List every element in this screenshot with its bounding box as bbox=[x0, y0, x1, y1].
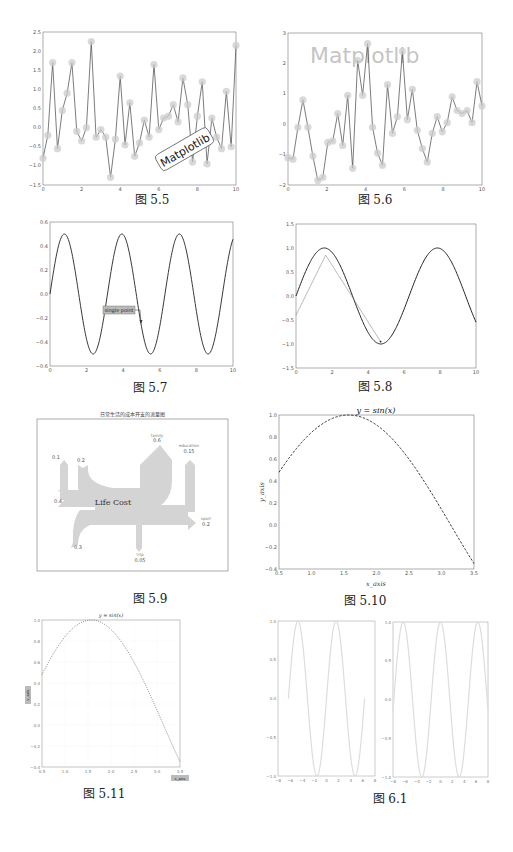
data-point-marker bbox=[126, 99, 133, 106]
y-tick-label: 0.4 bbox=[269, 478, 277, 484]
plot-area bbox=[279, 415, 474, 569]
data-point-marker bbox=[434, 113, 441, 120]
x-tick-label: −4 bbox=[414, 779, 420, 784]
y-tick-label: 0.8 bbox=[269, 434, 277, 440]
x-tick-label: 0 bbox=[294, 369, 297, 375]
y-tick-label: 1.0 bbox=[385, 620, 392, 625]
data-point-marker bbox=[429, 130, 436, 137]
sankey-in-0-2: 0.2 bbox=[77, 457, 85, 463]
data-point-marker bbox=[414, 127, 421, 134]
chart-title: y = sin(x) bbox=[356, 406, 396, 415]
data-point-marker bbox=[409, 86, 416, 93]
data-point-marker bbox=[232, 42, 239, 49]
data-point-marker bbox=[419, 145, 426, 152]
data-point-marker bbox=[78, 137, 85, 144]
y-tick-label: 0 bbox=[283, 121, 286, 127]
data-point-marker bbox=[394, 113, 401, 120]
figure-5-6-chart: Matplotlib 0246810 3210−1−2 bbox=[256, 0, 513, 195]
x-tick-label: 2 bbox=[451, 779, 454, 784]
x-tick-label: 8 bbox=[195, 367, 198, 373]
data-point-marker bbox=[354, 57, 361, 64]
x-tick-label: 8 bbox=[374, 778, 377, 783]
sankey-sport-value: 0.2 bbox=[202, 521, 210, 527]
y-tick-label: −2 bbox=[279, 182, 286, 188]
data-point-marker bbox=[131, 153, 138, 160]
y-tick-label: −0.5 bbox=[266, 735, 276, 740]
x-tick-label: 8 bbox=[196, 186, 199, 192]
x-tick-label: 6 bbox=[158, 367, 161, 373]
data-point-marker bbox=[179, 74, 186, 81]
caption-fig-5-6: 图 5.6 bbox=[358, 190, 393, 207]
data-point-marker bbox=[384, 81, 391, 88]
data-point-marker bbox=[203, 160, 210, 167]
data-point-marker bbox=[449, 93, 456, 100]
data-point-marker bbox=[309, 153, 316, 160]
figure-5-10-chart: y = sin(x) 0.51.01.52.02.53.03.5 1.00.80… bbox=[256, 400, 513, 595]
y-tick-label: 0.2 bbox=[40, 267, 48, 273]
data-point-marker bbox=[329, 137, 336, 144]
x-tick-label: −4 bbox=[299, 778, 305, 783]
single-point-label: single point bbox=[104, 307, 133, 314]
y-tick-label: 0.0 bbox=[33, 124, 41, 130]
data-point-marker bbox=[165, 113, 172, 120]
x-tick-label: 8 bbox=[487, 779, 490, 784]
x-tick-label: 2.0 bbox=[108, 769, 115, 774]
data-point-marker bbox=[136, 139, 143, 146]
data-point-marker bbox=[54, 145, 61, 152]
x-tick-label: 1.5 bbox=[85, 769, 92, 774]
y-tick-label: 1.0 bbox=[33, 86, 41, 92]
data-point-marker bbox=[463, 107, 470, 114]
data-point-marker bbox=[213, 134, 220, 141]
x-tick-label: −2 bbox=[426, 779, 432, 784]
x-tick-label: 4 bbox=[463, 779, 466, 784]
y-tick-label: −1.5 bbox=[282, 365, 294, 371]
data-point-marker bbox=[97, 126, 104, 133]
x-tick-label: −8 bbox=[275, 778, 281, 783]
data-point-marker bbox=[369, 124, 376, 131]
data-point-marker bbox=[339, 142, 346, 149]
y-tick-label: 3 bbox=[283, 30, 286, 36]
caption-fig-5-8: 图 5.8 bbox=[358, 377, 393, 394]
x-tick-label: 8 bbox=[438, 369, 441, 375]
y-tick-label: 2.5 bbox=[33, 29, 41, 35]
y-tick-label: 0.8 bbox=[34, 639, 41, 644]
y-axis-label: y_axis bbox=[258, 481, 266, 503]
x-tick-label: 4 bbox=[122, 367, 125, 373]
data-point-marker bbox=[155, 126, 162, 133]
data-point-marker bbox=[404, 116, 411, 123]
y-tick-label: 0.2 bbox=[34, 702, 41, 707]
y-tick-label: −0.5 bbox=[381, 736, 391, 741]
x-tick-label: 6 bbox=[362, 778, 365, 783]
data-point-marker bbox=[112, 136, 119, 143]
data-point-marker bbox=[294, 124, 301, 131]
caption-fig-5-9: 图 5.9 bbox=[133, 589, 168, 606]
figure-5-8-chart: 0246810 1.51.00.50.0−0.5−1.0−1.5 bbox=[256, 210, 513, 380]
plot-area bbox=[50, 222, 233, 366]
figure-5-9-sankey: 日常生活的成本开支的流量图 0.1 0.2 0.4 0.3 Life Cost … bbox=[0, 405, 256, 585]
y-tick-label: −0.4 bbox=[265, 566, 277, 572]
data-point-marker bbox=[344, 92, 351, 99]
data-point-marker bbox=[473, 78, 480, 85]
x-tick-label: 10 bbox=[473, 369, 479, 375]
x-tick-label: 3.5 bbox=[470, 570, 478, 576]
data-point-marker bbox=[44, 132, 51, 139]
data-point-marker bbox=[49, 59, 56, 66]
data-point-marker bbox=[444, 119, 451, 126]
y-axis-label-box: y_axis bbox=[25, 686, 31, 704]
data-point-marker bbox=[189, 158, 196, 165]
x-tick-label: 2.0 bbox=[373, 570, 381, 576]
x-tick-label: 3.5 bbox=[177, 769, 184, 774]
right-subplot bbox=[393, 622, 488, 777]
y-tick-label: 0.0 bbox=[385, 697, 392, 702]
y-tick-label: 1.0 bbox=[270, 619, 277, 624]
y-tick-label: 0.0 bbox=[40, 291, 48, 297]
data-point-marker bbox=[175, 118, 182, 125]
y-tick-label: 0.5 bbox=[270, 657, 277, 662]
x-tick-label: 2 bbox=[330, 369, 333, 375]
y-tick-label: 0.6 bbox=[269, 456, 277, 462]
data-point-marker bbox=[468, 119, 475, 126]
data-point-marker bbox=[424, 159, 431, 166]
y-tick-label: 0.4 bbox=[34, 681, 41, 686]
figure-5-7-chart: 0246810 0.60.40.20.0−0.2−0.4−0.6 single … bbox=[0, 210, 256, 380]
data-point-marker bbox=[68, 59, 75, 66]
